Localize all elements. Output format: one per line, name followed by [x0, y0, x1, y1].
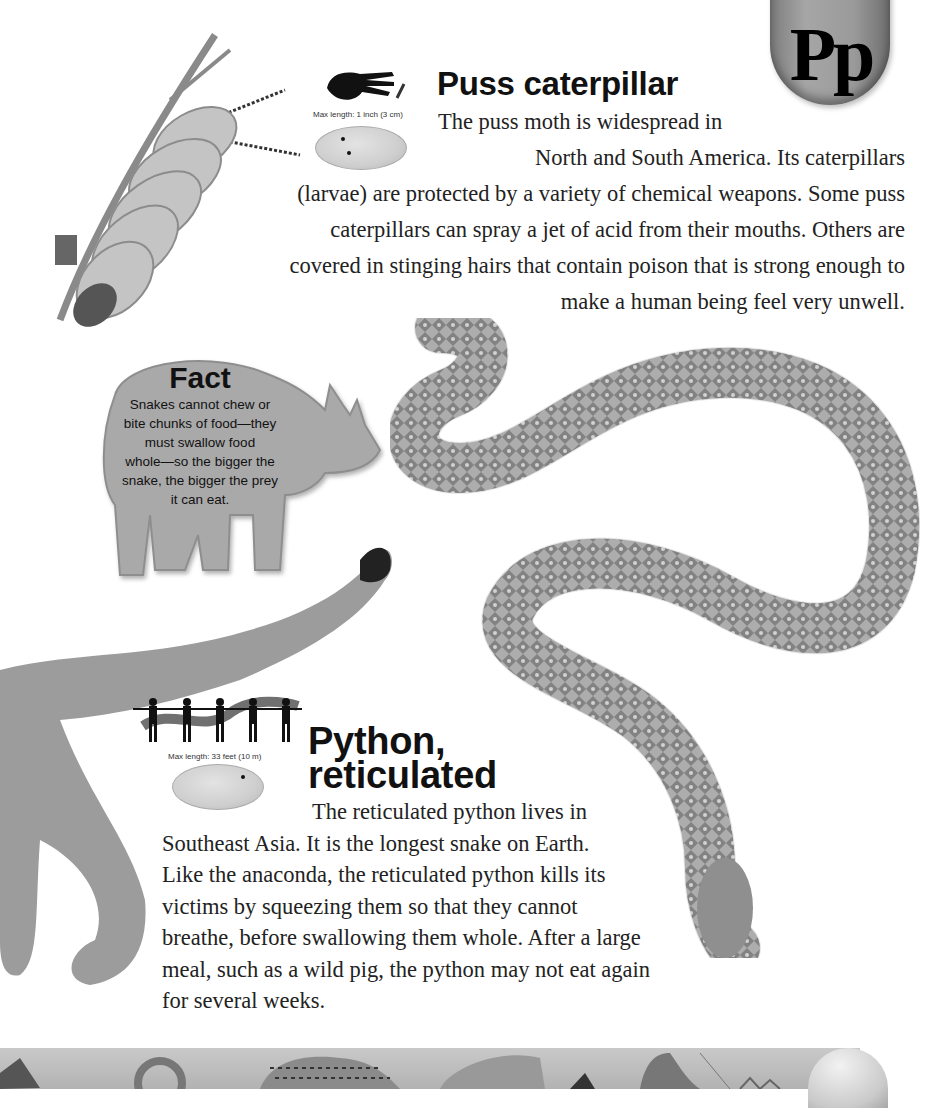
hand-silhouette-icon	[322, 66, 407, 104]
letter-tab: Pp	[770, 0, 890, 105]
fact-title: Fact	[105, 363, 295, 393]
entry-body-puss-caterpillar: The puss moth is widespread in North and…	[190, 104, 905, 320]
footer-animal-strip	[0, 1048, 860, 1089]
animal-thumbnails	[0, 1048, 860, 1089]
human-figures-silhouette-icon	[133, 696, 303, 744]
entry-title-puss-caterpillar: Puss caterpillar	[437, 66, 678, 102]
fact-content: Fact Snakes cannot chew or bite chunks o…	[105, 363, 295, 509]
letter-tab-label: Pp	[776, 14, 886, 94]
entry-body-python: The reticulated python lives in Southeas…	[162, 796, 722, 1017]
size-caption-python: Max length: 33 feet (10 m)	[168, 752, 261, 761]
entry-title-python: Python, reticulated	[308, 724, 497, 792]
location-dot	[241, 775, 245, 779]
